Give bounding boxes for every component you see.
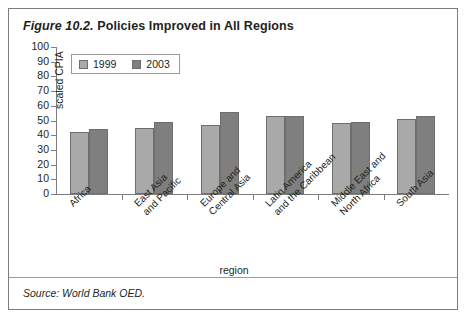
source-note: Source: World Bank OED. [23, 287, 145, 299]
chart-legend: 19992003 [71, 54, 180, 74]
y-axis-title: scaled CPIA [53, 51, 65, 109]
x-tick-mark [253, 195, 254, 200]
y-tick-mark [51, 91, 56, 92]
y-tick-label: 10 [37, 172, 49, 185]
x-tick-mark [187, 195, 188, 200]
y-tick-mark [51, 135, 56, 136]
legend-label: 2003 [146, 58, 169, 70]
y-tick-label: 20 [37, 158, 49, 171]
legend-item-1999[interactable]: 1999 [79, 58, 116, 70]
legend-label: 1999 [93, 58, 116, 70]
y-tick-mark [51, 194, 56, 195]
legend-swatch-icon [132, 60, 141, 69]
y-tick-label: 90 [37, 55, 49, 68]
y-tick-mark [51, 106, 56, 107]
x-tick-mark [122, 195, 123, 200]
bar-2003-africa [89, 129, 108, 194]
y-tick-mark [51, 47, 56, 48]
figure-number: Figure 10.2. [23, 19, 94, 33]
y-tick-mark [51, 150, 56, 151]
x-tick-mark [318, 195, 319, 200]
y-tick-label: 100 [31, 40, 49, 53]
legend-swatch-icon [79, 60, 88, 69]
x-axis-title: region [9, 264, 459, 276]
y-tick-label: 30 [37, 143, 49, 156]
y-tick-label: 0 [43, 187, 49, 200]
y-tick-label: 40 [37, 128, 49, 141]
figure-title: Figure 10.2. Policies Improved in All Re… [23, 19, 294, 33]
figure-title-text: Policies Improved in All Regions [97, 19, 294, 33]
y-tick-label: 60 [37, 99, 49, 112]
y-tick-mark [51, 76, 56, 77]
source-divider [9, 277, 457, 278]
y-tick-mark [51, 179, 56, 180]
figure-frame: Figure 10.2. Policies Improved in All Re… [8, 8, 458, 310]
y-tick-label: 80 [37, 69, 49, 82]
x-tick-mark [384, 195, 385, 200]
y-tick-mark [51, 62, 56, 63]
y-tick-label: 70 [37, 84, 49, 97]
legend-item-2003[interactable]: 2003 [132, 58, 169, 70]
y-tick-mark [51, 165, 56, 166]
y-tick-label: 50 [37, 114, 49, 127]
y-tick-mark [51, 121, 56, 122]
